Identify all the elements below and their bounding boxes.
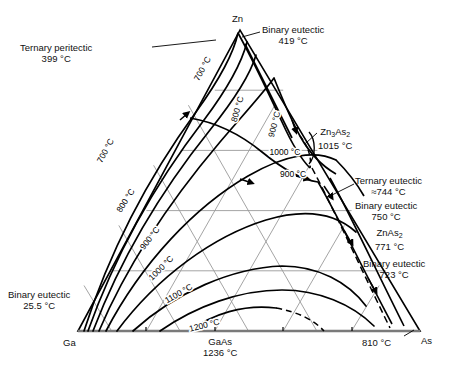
annotation-as-810: 810 °C [362,337,391,348]
annotation-line-1: Ternary peritectic [20,42,92,53]
annotation-ternary-peritectic: Ternary peritectic 399 °C [20,42,92,64]
annotation-line-1: Binary eutectic [8,289,70,300]
isotherm-1100-left: 1100 °C [163,282,194,306]
isotherm-1000-right: 1000 °C [270,147,301,157]
annotation-line-1: Binary eutectic [363,258,425,269]
annotation-line-2: 750 °C [372,211,401,222]
annotation-ternary-eutectic: Ternary eutectic ≈744 °C [355,175,422,197]
annotation-binary-eutectic-25: Binary eutectic 25.5 °C [8,289,70,311]
isotherm-1000-left: 1000 °C [146,253,175,282]
compound-formula-znas2: ZnAs2 [377,227,403,238]
annotation-zn3as2: Zn3As2 1015 °C [318,126,352,151]
annotation-line-2: 723 °C [380,269,409,280]
annotation-line-1: Binary eutectic [262,24,324,35]
vertex-label-ga: Ga [63,337,76,348]
annotation-binary-eutectic-723: Binary eutectic 723 °C [363,258,425,280]
annotation-line-2: 1236 °C [203,347,237,358]
annotation-line-1: GaAs [208,336,232,347]
annotation-line-2: 771 °C [375,241,404,252]
vertex-label-as: As [421,335,432,346]
annotation-line-2: 419 °C [279,35,308,46]
annotation-line-1: Ternary eutectic [355,175,422,186]
isotherm-800-left: 800 °C [114,187,136,214]
isotherm-800-upper: 800 °C [229,95,246,123]
isotherm-label-group: 700 °C700 °C800 °C800 °C900 °C900 °C1000… [95,55,306,334]
isotherm-900-upper: 900 °C [266,110,282,138]
annotation-binary-eutectic-750: Binary eutectic 750 °C [355,200,417,222]
isotherm-900-right: 900 °C [280,169,306,179]
annotation-line-1: Binary eutectic [355,200,417,211]
annotation-znas2: ZnAs2 771 °C [375,227,404,252]
annotation-line-2: 25.5 °C [23,300,55,311]
annotation-line-2: 1015 °C [318,140,352,151]
annotation-binary-eutectic-419: Binary eutectic 419 °C [262,24,324,46]
annotation-line-2: ≈744 °C [371,186,405,197]
vertex-label-zn: Zn [232,13,243,24]
annotation-line-2: 399 °C [42,53,71,64]
isotherm-700-upper: 700 °C [192,55,213,83]
compound-formula-zn3as2: Zn3As2 [320,126,350,137]
isotherm-700-left: 700 °C [95,137,116,165]
annotation-gaas: GaAs 1236 °C [203,336,237,358]
